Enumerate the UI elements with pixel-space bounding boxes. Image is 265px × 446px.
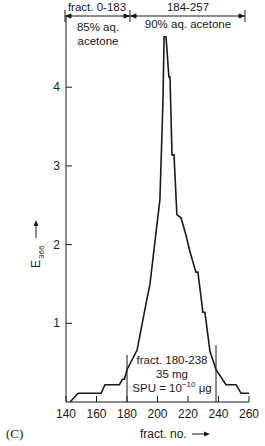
arrow-up-icon	[34, 220, 39, 226]
right-range-label: 184-257	[167, 1, 209, 13]
axes	[66, 16, 249, 402]
pooled-fraction-label: fract. 180-238	[137, 354, 208, 366]
left-solvent-label-2: acetone	[78, 35, 119, 47]
x-tick-label: 140	[56, 407, 76, 421]
y-tick-label: 2	[53, 238, 60, 252]
pooled-mass-label: 35 mg	[156, 368, 188, 380]
left-range-label: fract. 0-183	[68, 1, 126, 13]
svg-text:E: E	[29, 260, 43, 268]
y-axis-label: E 366	[29, 220, 46, 268]
x-tick-label: 220	[178, 407, 198, 421]
y-ticks: 1234	[53, 80, 72, 330]
y-tick-label: 1	[53, 316, 60, 330]
panel-label: (C)	[6, 426, 23, 441]
arrow-right-icon	[204, 432, 210, 437]
elution-curve	[70, 37, 249, 402]
arrowhead-icon	[124, 14, 129, 18]
left-solvent-label-1: 85% aq.	[77, 21, 119, 33]
arrowhead-icon	[66, 14, 71, 18]
x-tick-label: 160	[86, 407, 106, 421]
right-solvent-label: 90% aq. acetone	[145, 18, 231, 30]
x-tick-label: 200	[147, 407, 167, 421]
y-tick-label: 4	[53, 80, 60, 94]
y-tick-label: 3	[53, 159, 60, 173]
elution-profile-chart: fract. 0-183 85% aq. acetone 184-257 90%…	[0, 0, 265, 446]
arrowhead-icon	[239, 14, 244, 18]
x-tick-label: 180	[117, 407, 137, 421]
x-tick-label: 260	[239, 407, 259, 421]
svg-text:fract. no.: fract. no.	[140, 427, 187, 441]
spu-label: SPU = 10−10 μg	[132, 380, 211, 394]
svg-text:366: 366	[37, 245, 46, 259]
x-axis-label: fract. no.	[140, 427, 210, 441]
x-tick-label: 240	[208, 407, 228, 421]
x-ticks: 140160180200220240260	[56, 396, 259, 421]
arrowhead-icon	[131, 14, 136, 18]
